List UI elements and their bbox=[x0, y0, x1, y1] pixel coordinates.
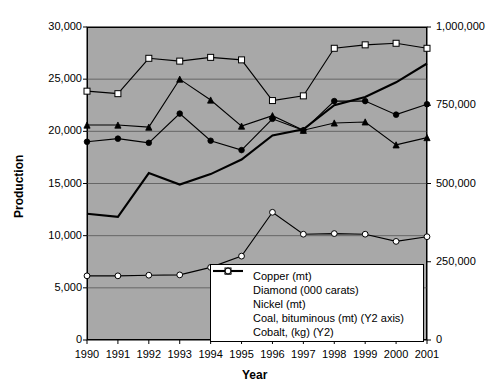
y-axis-tick-label: 10,000 bbox=[16, 230, 82, 241]
chart-legend: Copper (mt)Diamond (000 carats)Nickel (m… bbox=[210, 264, 424, 342]
y2-axis-tick-label: 1,000,000 bbox=[436, 21, 491, 32]
y-axis-tick-label: 5,000 bbox=[16, 282, 82, 293]
x-axis-tick-label: 1993 bbox=[163, 349, 197, 360]
y-axis-tick-label: 30,000 bbox=[16, 21, 82, 32]
series-line-1 bbox=[87, 64, 427, 217]
legend-item: Cobalt, (kg) (Y2) bbox=[211, 325, 423, 339]
x-axis-tick-label: 1992 bbox=[132, 349, 166, 360]
y-axis-title: Production bbox=[12, 154, 26, 217]
chart-container: 05,00010,00015,00020,00025,00030,0000250… bbox=[0, 0, 491, 389]
y-axis-tick-label: 20,000 bbox=[16, 125, 82, 136]
y2-axis-tick-label: 500,000 bbox=[436, 178, 491, 189]
x-axis-tick-label: 1991 bbox=[101, 349, 135, 360]
y-axis-tick-label: 0 bbox=[16, 334, 82, 345]
y-axis-tick-label: 25,000 bbox=[16, 73, 82, 84]
y2-axis-tick-label: 750,000 bbox=[436, 99, 491, 110]
series-line-2 bbox=[87, 101, 427, 150]
legend-marker-icon bbox=[217, 326, 251, 338]
x-axis-tick-label: 1990 bbox=[70, 349, 104, 360]
